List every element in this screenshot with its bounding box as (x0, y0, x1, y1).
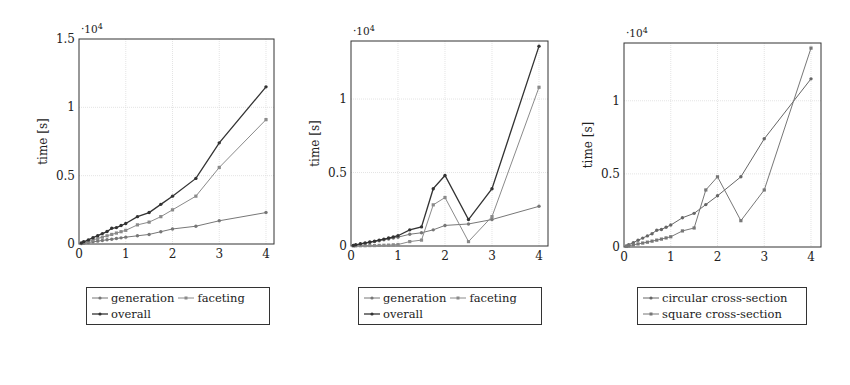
legend-1: generation faceting overall (86, 287, 270, 325)
chart-plot-1: 0123400.511.5·104·105number of structura… (0, 0, 290, 270)
line-marker-icon (643, 310, 659, 318)
svg-text:·104: ·104 (81, 22, 103, 35)
chart-panel-1: 0123400.511.5·104·105number of structura… (0, 0, 290, 385)
legend-3: circular cross-section square cross-sect… (637, 287, 807, 325)
svg-text:0.5: 0.5 (601, 167, 620, 181)
svg-text:·104: ·104 (626, 26, 648, 39)
svg-text:0: 0 (620, 250, 628, 264)
chart-plot-2: 0123400.51·104·105number of structural m… (290, 0, 570, 270)
chart-panel-2: 0123400.51·104·105number of structural m… (290, 0, 570, 385)
svg-text:0: 0 (612, 240, 620, 254)
svg-text:1: 1 (394, 249, 402, 263)
legend-item-overall: overall (364, 306, 423, 322)
svg-text:1: 1 (612, 94, 620, 108)
line-marker-icon (364, 310, 380, 318)
line-marker-icon (450, 294, 466, 302)
svg-text:0.5: 0.5 (328, 166, 347, 180)
svg-text:4: 4 (807, 250, 815, 264)
line-marker-icon (92, 294, 108, 302)
svg-text:0: 0 (347, 249, 355, 263)
svg-text:0: 0 (75, 247, 83, 261)
svg-text:3: 3 (760, 250, 768, 264)
svg-text:1: 1 (122, 247, 130, 261)
legend-item-generation: generation (92, 290, 174, 306)
svg-text:4: 4 (535, 249, 543, 263)
legend-item-overall: overall (92, 306, 151, 322)
chart-panel-3: 0123400.51·104·105number of structural m… (570, 0, 850, 385)
legend-item-faceting: faceting (450, 290, 516, 306)
line-marker-icon (92, 310, 108, 318)
svg-text:0.5: 0.5 (56, 169, 75, 183)
svg-text:4: 4 (262, 247, 270, 261)
svg-text:time [s]: time [s] (308, 120, 322, 166)
svg-text:1: 1 (667, 250, 675, 264)
svg-text:0: 0 (339, 239, 347, 253)
legend-item-faceting: faceting (178, 290, 244, 306)
line-marker-icon (643, 294, 659, 302)
legend-item-square: square cross-section (643, 306, 782, 322)
svg-text:time [s]: time [s] (581, 122, 595, 168)
svg-text:2: 2 (169, 247, 177, 261)
svg-text:2: 2 (441, 249, 449, 263)
svg-text:0: 0 (67, 237, 75, 251)
svg-text:·104: ·104 (353, 24, 375, 37)
legend-2: generation faceting overall (358, 287, 542, 325)
legend-item-circular: circular cross-section (643, 290, 787, 306)
svg-text:3: 3 (215, 247, 223, 261)
svg-text:1.5: 1.5 (56, 32, 75, 46)
line-marker-icon (364, 294, 380, 302)
svg-text:1: 1 (339, 92, 347, 106)
svg-text:2: 2 (714, 250, 722, 264)
svg-text:time [s]: time [s] (36, 118, 50, 164)
line-marker-icon (178, 294, 194, 302)
svg-text:1: 1 (67, 100, 75, 114)
chart-plot-3: 0123400.51·104·105number of structural m… (570, 0, 850, 270)
svg-text:3: 3 (488, 249, 496, 263)
legend-item-generation: generation (364, 290, 446, 306)
